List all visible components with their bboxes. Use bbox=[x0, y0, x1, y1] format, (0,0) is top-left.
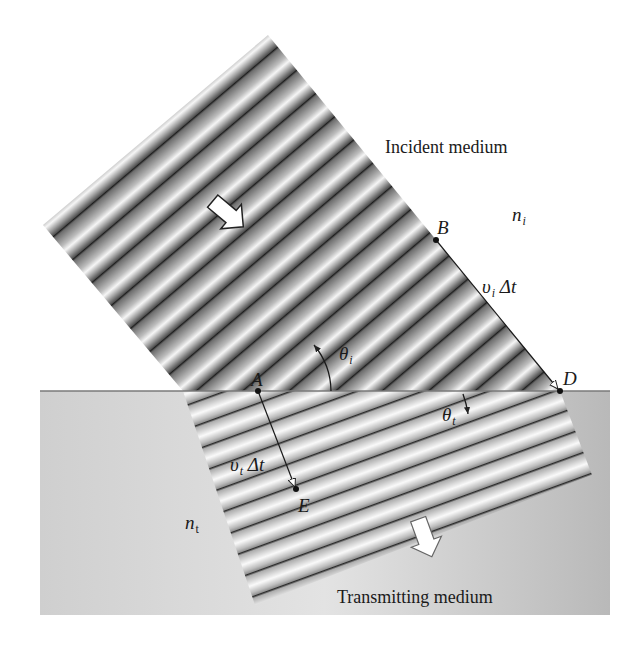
vi-v: υ bbox=[482, 276, 491, 297]
incident-medium-label: Incident medium bbox=[385, 138, 507, 156]
n-i-base: n bbox=[512, 204, 522, 225]
point-d-label: D bbox=[563, 369, 577, 388]
transmitting-medium-label: Transmitting medium bbox=[337, 588, 493, 606]
n-t-base: n bbox=[185, 512, 195, 533]
vt-v: υ bbox=[230, 454, 239, 475]
point-a-label: A bbox=[251, 370, 263, 389]
n-i-label: ni bbox=[512, 205, 526, 227]
refraction-diagram: Incident medium Transmitting medium ni n… bbox=[0, 0, 643, 650]
vi-delta-t-label: υi Δt bbox=[482, 277, 516, 299]
n-t-sub: t bbox=[196, 522, 199, 536]
theta-t-sub: t bbox=[452, 414, 455, 428]
point-e-label: E bbox=[298, 496, 310, 515]
n-t-label: nt bbox=[185, 513, 199, 535]
vt-rest: Δt bbox=[243, 454, 264, 475]
theta-i-label: θi bbox=[339, 344, 353, 366]
theta-i-sub: i bbox=[349, 353, 352, 367]
vi-rest: Δt bbox=[495, 276, 516, 297]
theta-i-base: θ bbox=[339, 343, 348, 364]
point-b-label: B bbox=[437, 218, 449, 237]
diagram-canvas bbox=[0, 0, 643, 650]
vt-delta-t-label: υt Δt bbox=[230, 455, 264, 477]
n-i-sub: i bbox=[523, 214, 526, 228]
point-e-dot bbox=[293, 486, 299, 492]
theta-t-label: θt bbox=[442, 405, 456, 427]
theta-t-base: θ bbox=[442, 404, 451, 425]
incident-wave-beam bbox=[43, 35, 560, 391]
